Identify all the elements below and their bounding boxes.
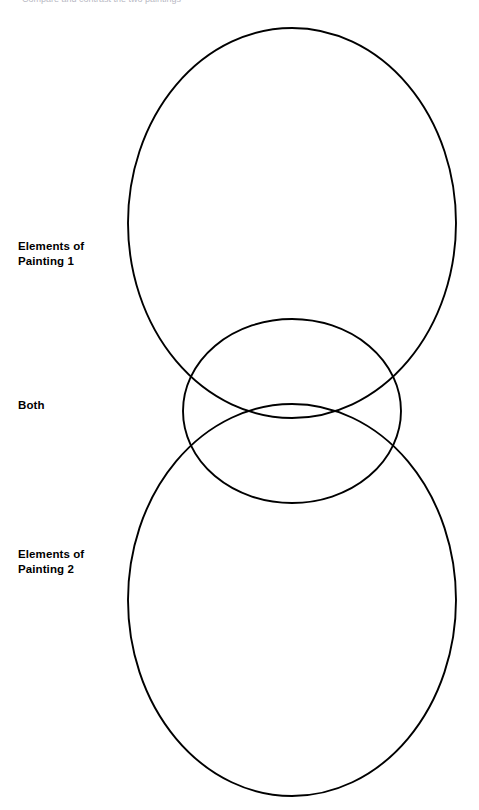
upper-ellipse-elements-of-painting-1[interactable] <box>128 28 456 418</box>
region-label-elements-of-painting-1: Elements of Painting 1 <box>18 239 122 270</box>
lower-ellipse-elements-of-painting-2[interactable] <box>128 404 456 796</box>
middle-circle-both[interactable] <box>183 319 401 503</box>
worksheet-page: Compare and contrast the two paintings E… <box>0 0 479 810</box>
region-label-both: Both <box>18 398 122 413</box>
region-label-elements-of-painting-2: Elements of Painting 2 <box>18 547 122 578</box>
